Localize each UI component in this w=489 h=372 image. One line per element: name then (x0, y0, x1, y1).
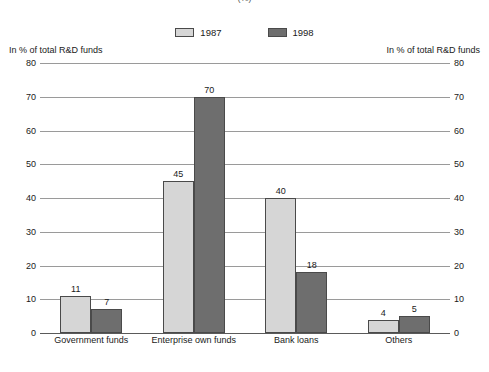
bar-group: 4018Bank loans (245, 63, 348, 333)
legend-label-1987: 1987 (200, 27, 221, 38)
bar-1987[interactable] (60, 296, 91, 333)
legend-swatch-1998 (268, 28, 287, 37)
bar-value-label: 40 (265, 186, 296, 196)
y-axis-tick-right: 20 (454, 262, 484, 271)
y-axis-caption-left: In % of total R&D funds (9, 45, 103, 55)
bar-slot: 4 (368, 63, 399, 333)
bar-group: 4570Enterprise own funds (143, 63, 246, 333)
bar-slot: 40 (265, 63, 296, 333)
chart-legend: 1987 1998 (0, 27, 489, 38)
y-axis-caption-right: In % of total R&D funds (386, 45, 480, 55)
y-axis-tick-left: 70 (6, 93, 36, 102)
gridline (40, 333, 450, 334)
bar-slot: 45 (163, 63, 194, 333)
bar-1987[interactable] (265, 198, 296, 333)
bar-group-bars: 4570 (143, 63, 246, 333)
legend-label-1998: 1998 (293, 27, 314, 38)
bar-value-label: 45 (163, 169, 194, 179)
x-axis-category-label: Others (385, 335, 412, 345)
bar-group-bars: 45 (348, 63, 451, 333)
legend-item-1998: 1998 (268, 27, 314, 38)
x-axis-category-label: Bank loans (274, 335, 319, 345)
bar-1998[interactable] (194, 97, 225, 333)
legend-swatch-1987 (175, 28, 194, 37)
y-axis-tick-left: 60 (6, 127, 36, 136)
y-axis-tick-left: 40 (6, 194, 36, 203)
bar-group: 45Others (348, 63, 451, 333)
bar-slot: 70 (194, 63, 225, 333)
bar-group-bars: 117 (40, 63, 143, 333)
bar-value-label: 70 (194, 85, 225, 95)
chart-title: (%) (0, 0, 489, 3)
y-axis-tick-left: 80 (6, 59, 36, 68)
bar-slot: 7 (91, 63, 122, 333)
bar-group: 117Government funds (40, 63, 143, 333)
x-axis-category-label: Enterprise own funds (151, 335, 236, 345)
bar-slot: 5 (399, 63, 430, 333)
y-axis-tick-left: 50 (6, 160, 36, 169)
legend-item-1987: 1987 (175, 27, 221, 38)
bar-value-label: 11 (60, 284, 91, 294)
x-axis-category-label: Government funds (54, 335, 128, 345)
y-axis-tick-right: 80 (454, 59, 484, 68)
y-axis-tick-right: 70 (454, 93, 484, 102)
plot-area: 8080707060605050404030302020101000117Gov… (40, 63, 450, 333)
y-axis-tick-left: 20 (6, 262, 36, 271)
bar-group-bars: 4018 (245, 63, 348, 333)
y-axis-tick-right: 50 (454, 160, 484, 169)
bar-value-label: 4 (368, 308, 399, 318)
y-axis-tick-left: 10 (6, 295, 36, 304)
y-axis-tick-right: 0 (454, 329, 484, 338)
bar-slot: 18 (296, 63, 327, 333)
bar-value-label: 7 (91, 297, 122, 307)
bar-1998[interactable] (296, 272, 327, 333)
bar-value-label: 5 (399, 304, 430, 314)
y-axis-tick-right: 40 (454, 194, 484, 203)
y-axis-tick-right: 10 (454, 295, 484, 304)
bar-1987[interactable] (368, 320, 399, 334)
y-axis-tick-left: 0 (6, 329, 36, 338)
bar-value-label: 18 (296, 260, 327, 270)
y-axis-tick-right: 30 (454, 228, 484, 237)
bar-1998[interactable] (399, 316, 430, 333)
y-axis-tick-right: 60 (454, 127, 484, 136)
bar-slot: 11 (60, 63, 91, 333)
bar-1998[interactable] (91, 309, 122, 333)
bar-1987[interactable] (163, 181, 194, 333)
y-axis-tick-left: 30 (6, 228, 36, 237)
